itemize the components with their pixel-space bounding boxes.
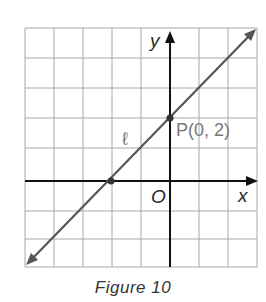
y-axis-arrow-icon xyxy=(165,31,175,43)
line-label: ℓ xyxy=(122,129,128,150)
y-axis-label: y xyxy=(150,30,160,52)
point-p-label: P(0, 2) xyxy=(176,120,230,141)
point-p xyxy=(167,115,174,122)
coordinate-plane xyxy=(0,0,266,302)
origin-label: O xyxy=(151,186,166,208)
figure-caption: Figure 10 xyxy=(0,278,266,298)
x-axis-label: x xyxy=(238,185,248,207)
point-x-intercept xyxy=(108,178,115,185)
